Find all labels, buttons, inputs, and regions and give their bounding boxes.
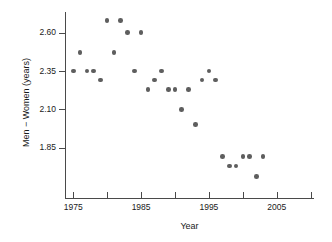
data-point	[227, 164, 232, 169]
data-point	[179, 107, 184, 112]
data-point	[112, 50, 117, 55]
data-point	[173, 87, 178, 92]
data-point	[105, 18, 110, 23]
data-point	[247, 154, 252, 159]
scatter-plot: 2.602.352.101.85 1975198519952005 Men − …	[0, 0, 332, 242]
data-point	[220, 154, 225, 159]
data-point	[207, 69, 212, 74]
data-point	[125, 30, 130, 35]
data-point	[78, 50, 83, 55]
data-point	[166, 87, 171, 92]
data-point	[186, 87, 191, 92]
data-point	[261, 154, 266, 159]
data-point	[200, 78, 205, 83]
data-point	[91, 69, 96, 74]
x-axis-title: Year	[65, 222, 314, 231]
data-point	[71, 69, 76, 74]
data-point	[193, 122, 198, 127]
data-point	[85, 69, 90, 74]
data-point	[234, 164, 239, 169]
y-axis-title: Men − Women (years)	[22, 23, 31, 183]
data-point	[139, 30, 144, 35]
data-point	[213, 78, 218, 83]
data-point	[132, 69, 137, 74]
data-point	[159, 69, 164, 74]
data-point	[152, 78, 157, 83]
data-point	[98, 78, 103, 83]
data-point	[241, 154, 246, 159]
data-point	[146, 87, 151, 92]
data-points-layer	[0, 0, 332, 242]
data-point	[254, 174, 259, 179]
data-point	[118, 18, 123, 23]
